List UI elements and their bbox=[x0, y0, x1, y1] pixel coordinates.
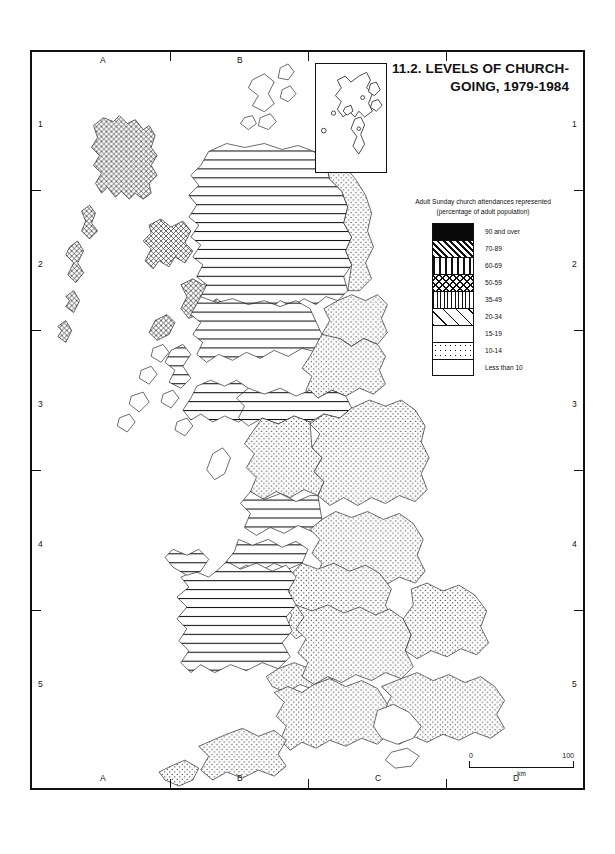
grid-tick-bottom-3 bbox=[446, 779, 447, 788]
legend-swatch-fine-vertical-lines bbox=[432, 291, 474, 308]
scale-bar: 0 100 km bbox=[469, 752, 574, 777]
legend-swatch-blank-ruled bbox=[432, 325, 474, 342]
legend-item-35-49: 35-49 bbox=[432, 291, 574, 308]
map-frame: 11.2. LEVELS OF CHURCH- GOING, 1979-1984 bbox=[30, 50, 585, 790]
region-midlands bbox=[296, 605, 413, 685]
grid-tick-bottom-2 bbox=[308, 779, 309, 788]
legend-caption-line-1: Adult Sunday church attendances represen… bbox=[394, 197, 572, 207]
legend-label: 35-49 bbox=[485, 296, 502, 303]
legend-label: 20-34 bbox=[485, 313, 502, 320]
grid-label-bottom-a: A bbox=[100, 774, 106, 783]
shetland-islands-shape bbox=[316, 64, 386, 172]
legend-label: 15-19 bbox=[485, 330, 502, 337]
legend-caption-line-2: (percentage of adult population) bbox=[394, 207, 572, 217]
grid-label-right-5: 5 bbox=[572, 680, 577, 689]
inset-shetland-box bbox=[315, 63, 387, 173]
scale-rule-line bbox=[469, 767, 574, 768]
great-britain-map bbox=[32, 52, 583, 788]
scale-min-label: 0 bbox=[469, 752, 473, 759]
region-wales bbox=[165, 549, 296, 672]
legend-swatch-list: 90 and over 70-89 60-69 50-59 35-49 20-3 bbox=[432, 223, 574, 376]
legend-label: 90 and over bbox=[485, 228, 520, 235]
grid-label-left-5: 5 bbox=[38, 680, 43, 689]
grid-tick-right-4 bbox=[574, 610, 583, 611]
grid-label-top-b: B bbox=[237, 56, 243, 65]
scale-unit-label: km bbox=[469, 770, 574, 777]
grid-label-bottom-d: D bbox=[513, 774, 519, 783]
grid-tick-bottom-1 bbox=[170, 779, 171, 788]
legend-swatch-wide-diagonal-lines bbox=[432, 308, 474, 325]
legend-item-15-19: 15-19 bbox=[432, 325, 574, 342]
grid-tick-top-2 bbox=[308, 52, 309, 61]
legend-caption: Adult Sunday church attendances represen… bbox=[394, 197, 572, 217]
legend-label: 70-89 bbox=[485, 245, 502, 252]
legend-label: 60-69 bbox=[485, 262, 502, 269]
grid-tick-right-3 bbox=[574, 470, 583, 471]
legend-swatch-checkered-crosshatch bbox=[432, 274, 474, 291]
legend-swatch-white bbox=[432, 359, 474, 376]
grid-label-right-1: 1 bbox=[572, 120, 577, 129]
grid-label-right-2: 2 bbox=[572, 260, 577, 269]
grid-label-right-3: 3 bbox=[572, 400, 577, 409]
legend-label: Less than 10 bbox=[485, 364, 523, 371]
legend-item-20-34: 20-34 bbox=[432, 308, 574, 325]
grid-label-left-1: 1 bbox=[38, 120, 43, 129]
scale-rule bbox=[469, 761, 574, 768]
grid-label-bottom-b: B bbox=[237, 774, 243, 783]
grid-tick-top-1 bbox=[170, 52, 171, 61]
scale-max-label: 100 bbox=[562, 752, 574, 759]
grid-label-right-4: 4 bbox=[572, 540, 577, 549]
legend-item-70-89: 70-89 bbox=[432, 240, 574, 257]
legend-label: 10-14 bbox=[485, 347, 502, 354]
grid-tick-left-3 bbox=[32, 470, 41, 471]
grid-label-top-a: A bbox=[100, 56, 106, 65]
region-lancashire-merseyside bbox=[227, 492, 322, 572]
legend-item-10-14: 10-14 bbox=[432, 342, 574, 359]
legend-swatch-stipple-dots bbox=[432, 342, 474, 359]
region-orkney bbox=[240, 64, 296, 130]
legend-swatch-solid-black bbox=[432, 223, 474, 240]
region-outer-hebrides bbox=[58, 116, 157, 343]
grid-tick-left-2 bbox=[32, 330, 41, 331]
legend-item-60-69: 60-69 bbox=[432, 257, 574, 274]
region-east-anglia bbox=[403, 583, 488, 659]
legend-item-less-than-10: Less than 10 bbox=[432, 359, 574, 376]
grid-tick-right-1 bbox=[574, 190, 583, 191]
legend-item-50-59: 50-59 bbox=[432, 274, 574, 291]
scale-cap-left bbox=[469, 761, 470, 768]
legend-swatch-dense-diagonal-hatch bbox=[432, 240, 474, 257]
grid-label-left-4: 4 bbox=[38, 540, 43, 549]
legend-swatch-vertical-bars bbox=[432, 257, 474, 274]
legend: Adult Sunday church attendances represen… bbox=[394, 197, 574, 376]
grid-tick-top-3 bbox=[446, 52, 447, 61]
scale-cap-right bbox=[573, 761, 574, 768]
grid-tick-left-1 bbox=[32, 190, 41, 191]
grid-tick-right-2 bbox=[574, 330, 583, 331]
grid-label-left-2: 2 bbox=[38, 260, 43, 269]
grid-label-bottom-c: C bbox=[375, 774, 381, 783]
legend-item-90-and-over: 90 and over bbox=[432, 223, 574, 240]
region-isle-of-man bbox=[207, 448, 231, 480]
legend-label: 50-59 bbox=[485, 279, 502, 286]
region-south-west-england bbox=[159, 679, 389, 786]
grid-label-left-3: 3 bbox=[38, 400, 43, 409]
grid-tick-left-4 bbox=[32, 610, 41, 611]
